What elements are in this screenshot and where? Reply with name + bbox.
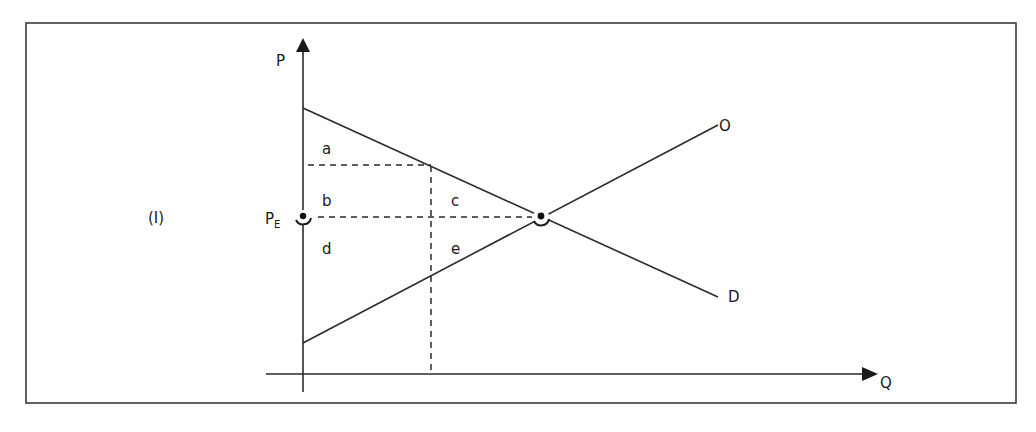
price-equilibrium-marker — [296, 210, 311, 224]
demand-curve-label: D — [728, 288, 740, 306]
quantity-axis-label: Q — [880, 374, 892, 392]
quantity-axis-arrow-icon — [862, 367, 878, 381]
region-b-label: b — [322, 192, 332, 210]
region-d-label: d — [322, 240, 332, 258]
supply-demand-diagram: P Q (I) PE O D a b c d e — [0, 0, 1036, 432]
price-axis-label: P — [276, 52, 285, 70]
price-equilibrium-label: PE — [265, 210, 280, 230]
equilibrium-point-marker — [533, 209, 549, 225]
region-a-label: a — [322, 140, 331, 158]
region-e-label: e — [451, 240, 460, 258]
supply-curve-label: O — [719, 117, 731, 135]
region-c-label: c — [451, 192, 459, 210]
price-axis-arrow-icon — [296, 38, 310, 52]
figure-frame — [26, 23, 1016, 403]
supply-curve — [303, 125, 718, 343]
demand-curve — [303, 108, 718, 297]
panel-label: (I) — [148, 209, 164, 227]
